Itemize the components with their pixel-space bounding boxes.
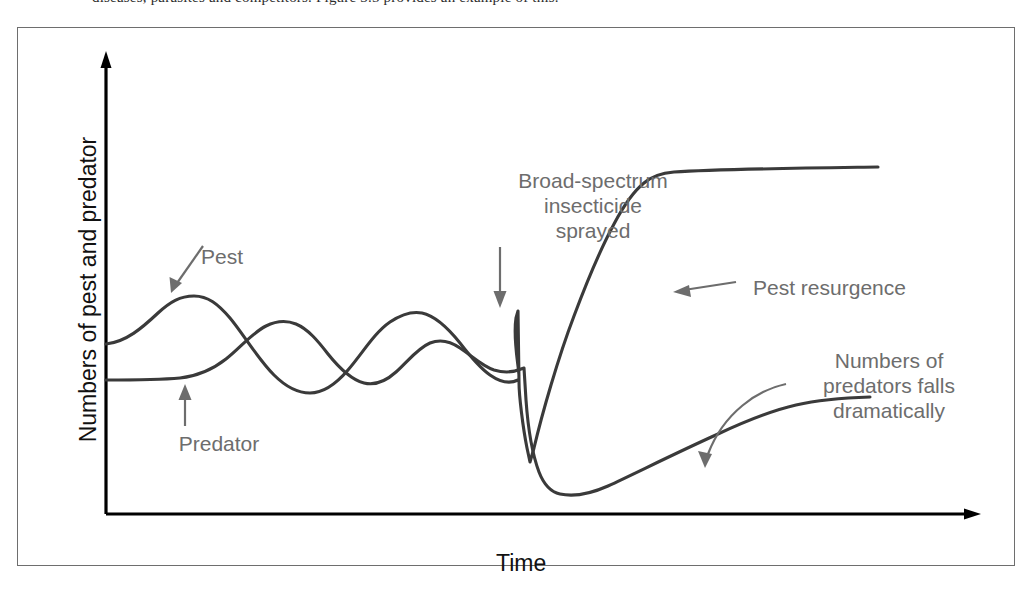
y-axis-arrowhead bbox=[101, 51, 112, 68]
annotation-pest-resurgence: Pest resurgence bbox=[753, 275, 983, 300]
series-label-predator: Predator bbox=[144, 431, 294, 456]
y-axis-label: Numbers of pest and predator bbox=[75, 90, 102, 490]
spray-event-arrow bbox=[494, 247, 507, 308]
x-axis-label: Time bbox=[496, 550, 546, 577]
predator-label-arrow bbox=[179, 384, 192, 426]
annotation-insecticide-sprayed: Broad-spectrum insecticide sprayed bbox=[484, 168, 702, 243]
predator-falls-arrow bbox=[698, 384, 786, 468]
predator-curve bbox=[106, 322, 870, 496]
series-label-pest: Pest bbox=[182, 244, 262, 269]
page-top-text-sliver: diseases, parasites and competitors. Fig… bbox=[0, 0, 1031, 14]
figure-frame: Numbers of pest and predator Time Pest P… bbox=[17, 27, 1015, 566]
x-axis-arrowhead bbox=[964, 509, 981, 520]
pest-resurgence-arrow bbox=[673, 282, 736, 297]
annotation-predators-fall: Numbers of predators falls dramatically bbox=[789, 348, 989, 423]
page-top-text: diseases, parasites and competitors. Fig… bbox=[92, 0, 559, 5]
